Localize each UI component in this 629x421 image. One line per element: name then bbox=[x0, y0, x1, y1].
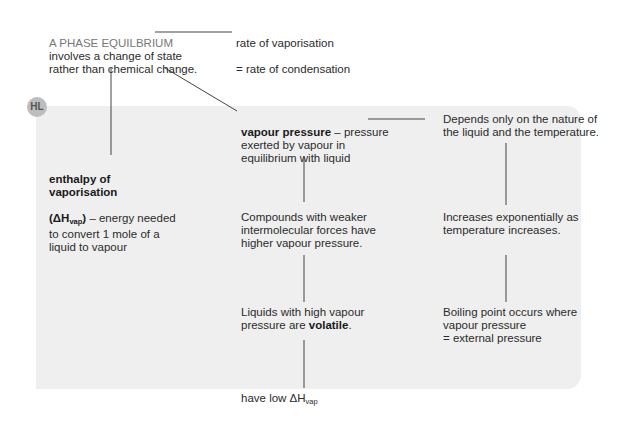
node-phase-equilibrium: A PHASE EQUILBRIUM involves a change of … bbox=[49, 24, 197, 89]
node-volatile: Liquids with high vapour pressure are vo… bbox=[241, 306, 364, 332]
low-enthalpy-sub: vap bbox=[306, 397, 318, 406]
node-enthalpy: enthalpy of vaporisation (ΔHvap) – energ… bbox=[49, 160, 179, 267]
node-boiling-point: Boiling point occurs where vapour pressu… bbox=[443, 306, 577, 345]
phase-equilibrium-heading: A PHASE EQUILBRIUM bbox=[49, 37, 173, 49]
node-low-enthalpy: have low ΔHvap bbox=[241, 392, 318, 408]
volatile-term: volatile bbox=[309, 319, 349, 331]
volatile-suffix: . bbox=[348, 319, 351, 331]
node-depends: Depends only on the nature of the liquid… bbox=[443, 113, 599, 139]
enthalpy-term: enthalpy of vaporisation bbox=[49, 173, 117, 198]
vapour-pressure-term: vapour pressure bbox=[241, 126, 331, 138]
enthalpy-symbol-sub: vap bbox=[69, 217, 82, 226]
node-vapour-pressure: vapour pressure – pressure exerted by va… bbox=[241, 113, 389, 178]
vapour-pressure-definition: – pressure bbox=[331, 126, 389, 138]
node-rates: rate of vaporisation = rate of condensat… bbox=[236, 24, 350, 89]
rates-line2: = rate of condensation bbox=[236, 63, 350, 76]
phase-equilibrium-body: involves a change of state rather than c… bbox=[49, 50, 197, 76]
node-weaker-forces: Compounds with weaker intermolecular for… bbox=[241, 211, 376, 250]
vapour-pressure-rest: exerted by vapour in equilibrium with li… bbox=[241, 139, 389, 165]
enthalpy-definition: – energy needed bbox=[86, 212, 176, 224]
enthalpy-rest: to convert 1 mole of a liquid to vapour bbox=[49, 228, 179, 254]
rates-line1: rate of vaporisation bbox=[236, 37, 350, 50]
low-enthalpy-prefix: have low ΔH bbox=[241, 392, 306, 404]
enthalpy-symbol: (ΔH bbox=[49, 212, 69, 224]
node-exponential: Increases exponentially as temperature i… bbox=[443, 211, 579, 237]
